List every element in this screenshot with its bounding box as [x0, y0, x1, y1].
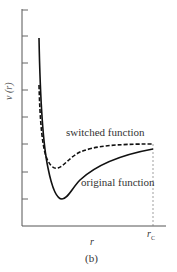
figure-caption: (b)	[85, 253, 98, 264]
cutoff-label: rC	[147, 229, 155, 241]
y-axis-label: ν (r)	[3, 83, 14, 101]
y-ticks	[22, 10, 28, 199]
original-function-curve	[39, 38, 153, 199]
switched-function-label: switched function	[66, 127, 145, 138]
cutoff-label-sub: C	[151, 235, 155, 241]
original-function-label: original function	[81, 177, 155, 188]
x-axis-label: r	[90, 237, 94, 247]
